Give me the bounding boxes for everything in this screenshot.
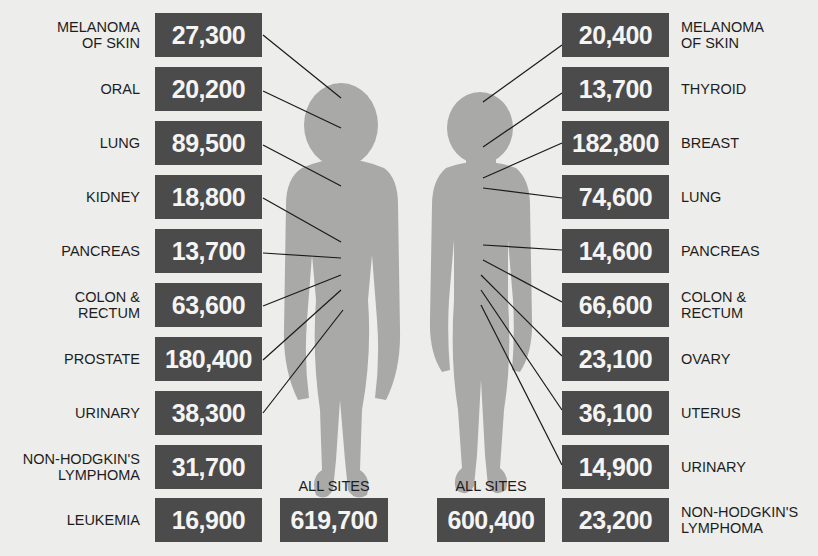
male-value-box: 63,600 <box>155 283 262 327</box>
female-value-box: 14,600 <box>562 229 669 273</box>
female-value-box: 13,700 <box>562 67 669 111</box>
female-site-label: URINARY <box>681 445 746 489</box>
female-site-label: PANCREAS <box>681 229 760 273</box>
female-value-box: 182,800 <box>562 121 669 165</box>
male-value-box: 20,200 <box>155 67 262 111</box>
male-site-label: MELANOMAOF SKIN <box>57 13 140 57</box>
female-value-box: 23,200 <box>562 498 669 542</box>
female-value-box: 36,100 <box>562 391 669 435</box>
female-value-box: 23,100 <box>562 337 669 381</box>
male-site-label: NON-HODGKIN'SLYMPHOMA <box>23 445 140 489</box>
male-all-sites-label: ALL SITES <box>280 478 388 494</box>
female-value-box: 14,900 <box>562 445 669 489</box>
female-value-box: 66,600 <box>562 283 669 327</box>
male-site-label: KIDNEY <box>86 175 140 219</box>
female-site-label: MELANOMAOF SKIN <box>681 13 764 57</box>
female-site-label: OVARY <box>681 337 730 381</box>
male-site-label: LUNG <box>100 121 140 165</box>
female-value-box: 74,600 <box>562 175 669 219</box>
male-all-sites-box: 619,700 <box>280 498 388 542</box>
female-site-label: BREAST <box>681 121 739 165</box>
male-site-label: URINARY <box>75 391 140 435</box>
female-site-label: THYROID <box>681 67 746 111</box>
female-value-box: 20,400 <box>562 13 669 57</box>
male-value-box: 27,300 <box>155 13 262 57</box>
male-value-box: 16,900 <box>155 498 262 542</box>
male-value-box: 180,400 <box>155 337 262 381</box>
female-silhouette <box>430 92 532 493</box>
male-value-box: 89,500 <box>155 121 262 165</box>
female-all-sites-box: 600,400 <box>437 498 545 542</box>
male-value-box: 38,300 <box>155 391 262 435</box>
male-site-label: PANCREAS <box>61 229 140 273</box>
male-value-box: 31,700 <box>155 445 262 489</box>
female-site-label: COLON &RECTUM <box>681 283 746 327</box>
female-site-label: UTERUS <box>681 391 741 435</box>
male-site-label: LEUKEMIA <box>67 498 140 542</box>
male-site-label: COLON &RECTUM <box>75 283 140 327</box>
male-site-label: PROSTATE <box>64 337 140 381</box>
female-site-label: LUNG <box>681 175 721 219</box>
male-value-box: 18,800 <box>155 175 262 219</box>
male-site-label: ORAL <box>101 67 141 111</box>
female-all-sites-label: ALL SITES <box>437 478 545 494</box>
female-site-label: NON-HODGKIN'SLYMPHOMA <box>681 498 798 542</box>
male-value-box: 13,700 <box>155 229 262 273</box>
